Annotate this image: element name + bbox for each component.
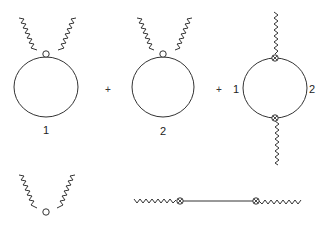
open-vertex-icon (43, 51, 49, 57)
contact-vertex-diagram (19, 175, 75, 215)
crossed-vertex-left-icon (177, 198, 183, 204)
loop-circle (132, 57, 194, 117)
crossed-vertex-right-icon (253, 198, 259, 204)
loop-12-right-label: 2 (309, 84, 315, 95)
photon-leg-left (19, 18, 37, 50)
photon-leg-right (57, 175, 75, 208)
loop-2-label: 2 (160, 126, 166, 137)
photon-leg-left (137, 18, 154, 50)
photon-leg-left (134, 199, 176, 203)
loop-diagram-2 (132, 18, 194, 117)
loop-diagram-12 (243, 12, 307, 165)
loop-diagram-1 (14, 18, 78, 117)
plus-operator-2: + (216, 85, 222, 95)
photon-leg-right (58, 18, 76, 50)
loop-circle (14, 57, 78, 117)
photon-leg-left (19, 175, 37, 208)
propagator-diagram (134, 198, 301, 204)
photon-leg-right (259, 200, 301, 204)
feynman-diagram-canvas (0, 0, 326, 228)
open-vertex-icon (160, 51, 166, 57)
loop-circle (243, 58, 307, 118)
open-vertex-icon (43, 209, 49, 215)
loop-1-label: 1 (43, 125, 49, 136)
photon-leg-bottom (275, 121, 279, 165)
photon-leg-top (274, 12, 278, 54)
loop-12-left-label: 1 (233, 84, 239, 95)
plus-operator-1: + (105, 85, 111, 95)
crossed-vertex-bottom-icon (272, 115, 278, 121)
crossed-vertex-top-icon (272, 55, 278, 61)
photon-leg-right (175, 18, 192, 50)
